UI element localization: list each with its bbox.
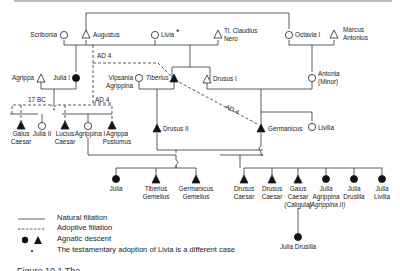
drusus-ii-symbol bbox=[153, 124, 161, 132]
label-caligula-1: Gaius bbox=[290, 185, 307, 192]
legend-livia-note: The testamentary adoption of Livia is a … bbox=[57, 245, 235, 254]
label-caligula-3: (Caligula) bbox=[284, 201, 311, 209]
label-ti-claudius-1: Ti. Claudius bbox=[224, 27, 258, 34]
tiberius-symbol bbox=[170, 74, 178, 82]
label-lucius-caesar-1: Lucius bbox=[56, 130, 74, 137]
label-17bc: 17 BC bbox=[28, 96, 46, 103]
label-drusus-caesar-1b: Caesar bbox=[234, 193, 255, 200]
label-augustus: Augustus bbox=[93, 31, 120, 39]
label-agrippina-i: Agrippina I bbox=[75, 130, 106, 138]
label-agrippa-postumus-2: Postumus bbox=[103, 138, 131, 145]
legend-asterisk-icon bbox=[31, 250, 33, 252]
octavia-symbol bbox=[285, 31, 292, 38]
label-agrippa-postumus-1: Agrippa bbox=[106, 130, 128, 138]
julia-ii-symbol bbox=[38, 122, 45, 129]
livia-symbol bbox=[151, 31, 158, 38]
label-gaius-caesar-2: Caesar bbox=[11, 138, 32, 145]
gaius-caesar-symbol bbox=[17, 121, 25, 129]
label-vipsania-2: Agrippina bbox=[106, 82, 133, 90]
label-octavia: Octavia I bbox=[295, 31, 320, 38]
julia-agrippina-symbol bbox=[322, 175, 329, 182]
label-ad4-left: AD 4 bbox=[95, 96, 110, 103]
label-scribonia: Scribonia bbox=[30, 31, 57, 38]
label-drusus-i: Drusus I bbox=[213, 75, 237, 82]
scribonia-symbol bbox=[60, 31, 67, 38]
label-tiberius-gemellus-1: Tiberius bbox=[145, 185, 168, 192]
label-julia-ii: Julia II bbox=[33, 130, 52, 137]
label-tiberius: Tiberius bbox=[146, 74, 169, 81]
julia-livilla-symbol bbox=[378, 175, 385, 182]
legend-agnatic-descent: Agnatic descent bbox=[57, 234, 111, 243]
agrippa-postumus-symbol bbox=[108, 121, 116, 129]
label-julia-livilla-2: Livilla bbox=[374, 193, 390, 200]
label-julia-agrippina-1: Julia bbox=[319, 185, 333, 192]
label-marcus-antonius-1: Marcus bbox=[343, 26, 364, 33]
germanicus-gemellus-symbol bbox=[192, 175, 200, 183]
ti-claudius-symbol bbox=[214, 30, 222, 38]
julia-i-symbol bbox=[72, 74, 79, 81]
legend-adoptive-filiation: Adoptive filiation bbox=[57, 223, 112, 232]
figure-caption: Figure 10.1 The bbox=[17, 265, 80, 271]
legend-filled-triangle-icon bbox=[34, 236, 42, 244]
legend-filled-circle-icon bbox=[22, 237, 28, 243]
label-drusus-ii: Drusus II bbox=[163, 125, 189, 132]
tiberius-gemellus-symbol bbox=[152, 175, 160, 183]
livilla-symbol bbox=[308, 123, 315, 130]
label-julia-livilla-1: Julia bbox=[375, 185, 389, 192]
label-vipsania-1: Vipsania bbox=[109, 74, 134, 82]
augustus-symbol bbox=[82, 30, 90, 38]
label-drusus-caesar-2a: Drusus bbox=[262, 185, 282, 192]
label-antonia-1: Antonia bbox=[318, 70, 340, 77]
label-marcus-antonius-2: Antonius bbox=[343, 34, 368, 41]
label-lucius-caesar-2: Caesar bbox=[55, 138, 76, 145]
germanicus-symbol bbox=[257, 124, 265, 132]
vipsania-symbol bbox=[135, 74, 142, 81]
agrippa-symbol bbox=[37, 74, 45, 82]
label-julia: Julia bbox=[109, 185, 123, 192]
label-germanicus-gemellus-2: Gemellus bbox=[183, 193, 210, 200]
caligula-symbol bbox=[294, 175, 302, 183]
label-ti-claudius-2: Nero bbox=[224, 35, 238, 42]
label-caligula-2: Caesar bbox=[288, 193, 309, 200]
julia-symbol bbox=[112, 175, 119, 182]
drusus-caesar-1-symbol bbox=[240, 175, 248, 183]
label-germanicus-gemellus-1: Germanicus bbox=[179, 185, 213, 192]
label-antonia-2: (Minor) bbox=[318, 78, 338, 86]
label-livia: Livia bbox=[161, 31, 175, 38]
label-julia-agrippina-2: Agrippina bbox=[312, 193, 339, 201]
drusus-caesar-2-symbol bbox=[268, 175, 276, 183]
label-julia-i: Julia I bbox=[53, 74, 70, 81]
julia-drusilla-symbol bbox=[350, 175, 357, 182]
label-drusus-caesar-1a: Drusus bbox=[234, 185, 254, 192]
legend-natural-filiation: Natural filiation bbox=[57, 213, 107, 222]
label-germanicus: Germanicus bbox=[268, 125, 302, 132]
label-julia-drusilla-1: Julia bbox=[347, 185, 361, 192]
julia-drusilla-child-symbol bbox=[294, 233, 301, 240]
label-julia-drusilla-child: Julia Drusilla bbox=[280, 243, 317, 250]
label-gaius-caesar-1: Gaius bbox=[13, 130, 30, 137]
label-ad4-top: AD 4 bbox=[97, 52, 112, 59]
label-agrippa: Agrippa bbox=[12, 74, 34, 82]
label-julia-agrippina-3: (Agrippina II) bbox=[309, 201, 346, 209]
livia-asterisk: * bbox=[176, 27, 180, 37]
antonius-symbol bbox=[330, 30, 338, 38]
label-livilla: Livilla bbox=[318, 124, 334, 131]
lucius-caesar-symbol bbox=[61, 121, 69, 129]
label-tiberius-gemellus-2: Gemellus bbox=[143, 193, 170, 200]
agrippina-i-symbol bbox=[84, 122, 91, 129]
label-julia-drusilla-2: Drusilla bbox=[343, 193, 365, 200]
legend-symbols bbox=[18, 219, 45, 252]
label-drusus-caesar-2b: Caesar bbox=[262, 193, 283, 200]
antonia-symbol bbox=[308, 74, 315, 81]
